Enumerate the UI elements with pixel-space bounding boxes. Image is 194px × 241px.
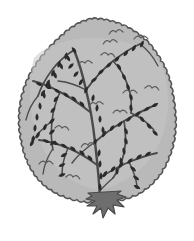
tree-illustration-canvas: Deciduous Tree Line Illustration bbox=[0, 0, 194, 241]
tree-illustration bbox=[0, 0, 194, 241]
